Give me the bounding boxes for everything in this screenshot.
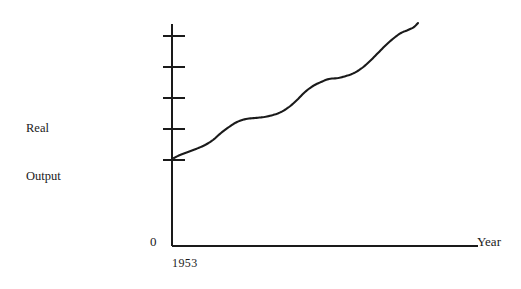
x-axis-title: Year — [477, 234, 501, 251]
y-axis-title-line-1: Real — [26, 120, 61, 136]
x-axis-start-label: 1953 — [172, 256, 198, 271]
origin-label: 0 — [150, 234, 157, 251]
y-axis-ticks — [163, 36, 185, 160]
y-axis-title-line-2: Output — [26, 168, 61, 184]
chart-plot-area — [0, 0, 521, 289]
y-axis-title: Real Output — [26, 88, 61, 216]
data-series-line — [174, 23, 418, 158]
figure-canvas: Real Output 0 1953 Year — [0, 0, 521, 289]
